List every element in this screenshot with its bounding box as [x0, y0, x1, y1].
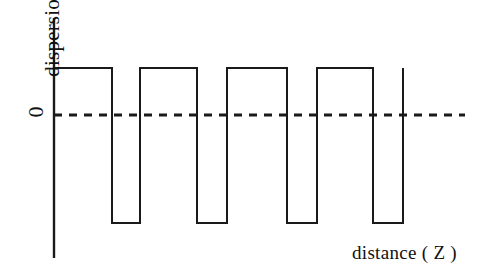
dispersion-plot — [0, 0, 485, 278]
square-wave-trace — [54, 68, 403, 223]
x-axis-label: distance ( Z ) — [352, 243, 457, 262]
dispersion-figure: dispersion 0 distance ( Z ) — [0, 0, 485, 278]
y-axis-zero-tick-label: 0 — [25, 107, 47, 118]
y-axis-label: dispersion — [42, 0, 63, 93]
